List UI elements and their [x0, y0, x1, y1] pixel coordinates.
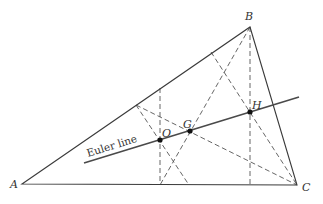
- vertex-label-c: C: [302, 181, 311, 194]
- vertex-label-a: A: [9, 178, 18, 191]
- euler-line-diagram: Euler line A B C O G H: [0, 0, 323, 204]
- centroid-label: G: [183, 118, 192, 131]
- vertex-label-b: B: [244, 10, 253, 23]
- median-from-b: [160, 27, 250, 185]
- circumcenter-label: O: [162, 127, 171, 140]
- orthocenter-label: H: [251, 99, 262, 112]
